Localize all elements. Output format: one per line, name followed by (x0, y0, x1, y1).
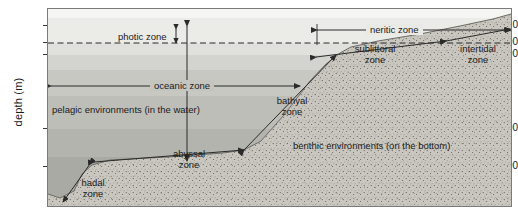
hadal-zone-label: hadal zone (70, 177, 116, 199)
abyssal-zone-label-line1: abyssal (173, 148, 205, 159)
abyssal-zone-label-line2: zone (179, 159, 200, 170)
plot-area: photic zone oceanic zone pelagic environ… (47, 8, 512, 207)
intertidal-zone-label: intertidal zone (448, 43, 508, 65)
hadal-zone-label-line1: hadal (81, 177, 104, 188)
sublittoral-zone-label-line1: sublittoral (355, 43, 396, 54)
bathyal-zone-label: bathyal zone (266, 95, 318, 117)
hadal-zone-label-line2: zone (83, 188, 104, 199)
oceanic-zone-label: oceanic zone (150, 80, 214, 91)
abyssal-zone-label: abyssal zone (163, 148, 215, 170)
photic-zone-label: photic zone (118, 31, 167, 42)
intertidal-zone-label-line1: intertidal (460, 43, 496, 54)
benthic-environments-label: benthic environments (on the bottom) (293, 140, 450, 151)
sublittoral-zone-label: sublittoral zone (340, 43, 410, 65)
bathyal-zone-label-line2: zone (282, 106, 303, 117)
ocean-zones-diagram: depth (m) 0 200 2000 4000 6000 (0, 0, 518, 213)
y-axis-title: depth (m) (12, 22, 24, 182)
bathyal-zone-label-line1: bathyal (277, 95, 308, 106)
pelagic-environments-label: pelagic environments (in the water) (52, 104, 200, 115)
neritic-zone-label: neritic zone (366, 24, 423, 35)
sublittoral-zone-label-line2: zone (365, 54, 386, 65)
intertidal-zone-label-line2: zone (468, 54, 489, 65)
